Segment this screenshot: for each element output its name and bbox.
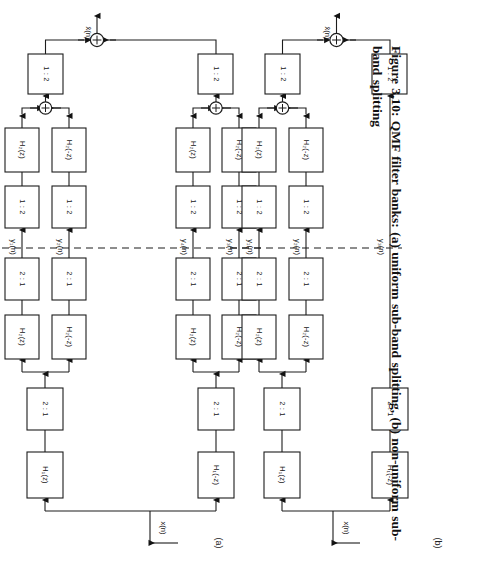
svg-text:2 : 1: 2 : 1 <box>41 401 50 416</box>
svg-text:2 : 1: 2 : 1 <box>65 271 74 286</box>
scanned-page: 84 CHAPTER 3. SPEECH CODING x(n) <box>0 0 495 583</box>
svg-text:H₂(-z): H₂(-z) <box>302 140 311 161</box>
svg-text:x̂(n): x̂(n) <box>323 26 332 40</box>
svg-text:y₂(n): y₂(n) <box>293 239 302 255</box>
svg-text:H₂(z): H₂(z) <box>189 328 198 346</box>
svg-text:H₁(z): H₁(z) <box>41 466 50 483</box>
svg-text:H₁(-z): H₁(-z) <box>212 465 221 485</box>
figure-output-stage: x̂(n) x̂(n) <box>0 0 495 120</box>
svg-text:1 : 2: 1 : 2 <box>189 199 198 214</box>
svg-text:y₁(n): y₁(n) <box>9 239 18 255</box>
svg-text:1 : 2: 1 : 2 <box>255 199 264 214</box>
svg-text:2 : 1: 2 : 1 <box>18 271 27 286</box>
svg-text:H₂(-z): H₂(-z) <box>65 327 74 348</box>
svg-text:H₂(z): H₂(z) <box>255 141 264 159</box>
svg-text:y₄(n): y₄(n) <box>180 239 189 256</box>
svg-text:1 : 2: 1 : 2 <box>302 199 311 214</box>
svg-text:2 : 1: 2 : 1 <box>302 271 311 286</box>
svg-text:H₂(z): H₂(z) <box>18 141 27 159</box>
panel-letter-labels: (a) (b) <box>0 520 495 583</box>
svg-text:1 : 2: 1 : 2 <box>65 199 74 214</box>
svg-text:H₁(z): H₁(z) <box>278 466 287 483</box>
svg-text:2 : 1: 2 : 1 <box>212 401 221 416</box>
svg-text:H₂(z): H₂(z) <box>189 141 198 159</box>
panel-a-letter: (a) <box>214 538 224 549</box>
svg-text:H₂(-z): H₂(-z) <box>302 327 311 348</box>
svg-text:2 : 1: 2 : 1 <box>278 401 287 416</box>
svg-text:y₁(n): y₁(n) <box>246 239 255 255</box>
svg-text:y₂(n): y₂(n) <box>56 239 65 255</box>
svg-text:1 : 2: 1 : 2 <box>18 199 27 214</box>
svg-text:x̂(n): x̂(n) <box>84 26 93 40</box>
figure-caption: Figure 3.10: QMF filter banks: (a) unifo… <box>342 46 406 546</box>
svg-text:H₂(-z): H₂(-z) <box>65 140 74 161</box>
panel-b-letter: (b) <box>433 538 443 549</box>
svg-text:2 : 1: 2 : 1 <box>189 271 198 286</box>
svg-text:H₂(z): H₂(z) <box>255 328 264 346</box>
svg-text:H₂(z): H₂(z) <box>18 328 27 346</box>
svg-text:2 : 1: 2 : 1 <box>255 271 264 286</box>
svg-text:y₃(n): y₃(n) <box>226 239 235 256</box>
